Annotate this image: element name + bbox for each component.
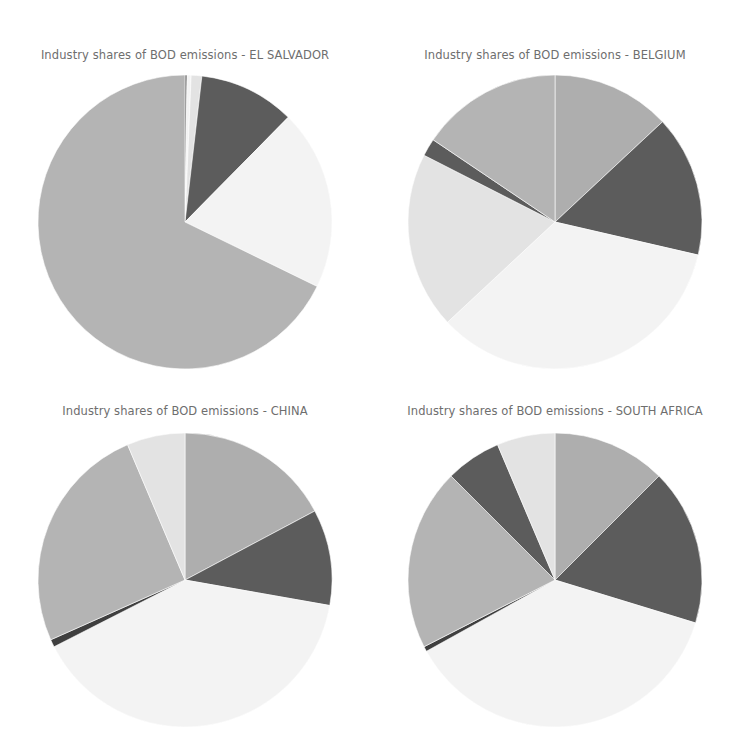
- pie-chart-china: [37, 432, 333, 728]
- panel-china: Industry shares of BOD emissions - CHINA: [0, 378, 370, 756]
- panel-belgium: Industry shares of BOD emissions - BELGI…: [370, 0, 740, 378]
- pie-svg-el-salvador: [37, 74, 333, 370]
- panel-el-salvador: Industry shares of BOD emissions - EL SA…: [0, 0, 370, 378]
- panel-title-el-salvador: Industry shares of BOD emissions - EL SA…: [41, 50, 329, 62]
- pie-svg-china: [37, 432, 333, 728]
- pie-svg-belgium: [407, 74, 703, 370]
- panel-title-south-africa: Industry shares of BOD emissions - SOUTH…: [407, 406, 702, 418]
- panel-south-africa: Industry shares of BOD emissions - SOUTH…: [370, 378, 740, 756]
- pie-chart-el-salvador: [37, 74, 333, 370]
- panel-title-china: Industry shares of BOD emissions - CHINA: [62, 406, 307, 418]
- pie-svg-south-africa: [407, 432, 703, 728]
- figure-page: Industry shares of BOD emissions - EL SA…: [0, 0, 740, 756]
- pie-panel-grid: Industry shares of BOD emissions - EL SA…: [0, 0, 740, 756]
- pie-chart-south-africa: [407, 432, 703, 728]
- pie-chart-belgium: [407, 74, 703, 370]
- panel-title-belgium: Industry shares of BOD emissions - BELGI…: [424, 50, 685, 62]
